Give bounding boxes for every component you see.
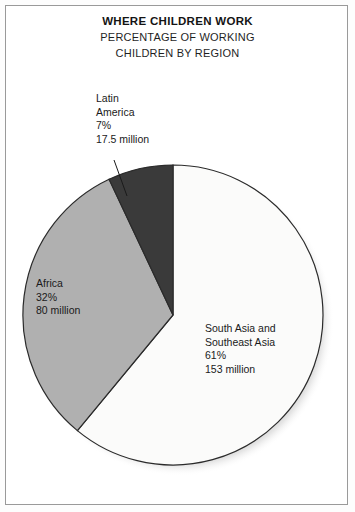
- africa-percent: 32%: [36, 291, 80, 305]
- africa-name: Africa: [36, 277, 80, 291]
- chart-figure: WHERE CHILDREN WORK PERCENTAGE OF WORKIN…: [0, 0, 355, 512]
- latin-america-name-line-1: Latin: [96, 92, 149, 106]
- pie-chart: [0, 0, 355, 512]
- south-asia-name-line-2: Southeast Asia: [205, 336, 276, 350]
- south-asia-amount: 153 million: [205, 363, 276, 377]
- slice-label-africa: Africa 32% 80 million: [36, 277, 80, 318]
- slice-label-latin-america: Latin America 7% 17.5 million: [96, 92, 149, 146]
- latin-america-percent: 7%: [96, 119, 149, 133]
- latin-america-name-line-2: America: [96, 106, 149, 120]
- slice-label-south-asia: South Asia and Southeast Asia 61% 153 mi…: [205, 322, 276, 376]
- latin-america-amount: 17.5 million: [96, 133, 149, 147]
- south-asia-percent: 61%: [205, 349, 276, 363]
- south-asia-name-line-1: South Asia and: [205, 322, 276, 336]
- africa-amount: 80 million: [36, 304, 80, 318]
